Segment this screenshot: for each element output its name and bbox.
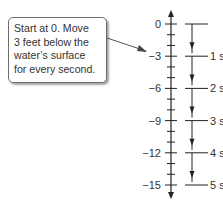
axis-label: −3 <box>148 50 161 62</box>
axis-arrow-up-icon <box>168 10 174 17</box>
time-label: 5 s <box>210 179 223 191</box>
time-label: 4 s <box>210 147 223 159</box>
pointer-arrowhead-icon <box>137 45 147 52</box>
number-line-diagram: 0−3−6−9−12−15 1 s2 s3 s4 s5 s <box>0 0 223 202</box>
axis-label: −9 <box>148 115 161 127</box>
time-label: 2 s <box>210 82 223 94</box>
time-label: 3 s <box>210 115 223 127</box>
axis-label: −15 <box>142 179 161 191</box>
time-markers: 1 s2 s3 s4 s5 s <box>185 24 223 191</box>
time-label: 1 s <box>210 50 223 62</box>
axis-arrow-down-icon <box>168 192 174 199</box>
axis-labels: 0−3−6−9−12−15 <box>142 18 161 191</box>
axis-label: −6 <box>148 82 161 94</box>
axis-label: −12 <box>142 147 161 159</box>
axis-label: 0 <box>155 18 161 30</box>
